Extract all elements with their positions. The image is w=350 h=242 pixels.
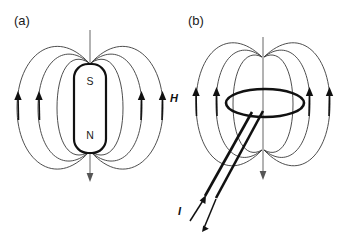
current-direction-arrows: [190, 195, 216, 232]
field-symbol-h: H: [170, 92, 179, 104]
field-line-b-outer-right: [264, 43, 330, 166]
field-arrow-3-head: [138, 91, 145, 100]
panel-b-center-axis: [260, 37, 267, 180]
field-line-b-outer-left: [196, 43, 262, 166]
current-arrow-1-head: [200, 195, 206, 204]
current-symbol-i: I: [178, 205, 182, 217]
center-axis-arrowhead-b: [260, 171, 267, 180]
field-line-b-mid-left: [216, 50, 262, 157]
current-arrow-2-shaft: [204, 199, 216, 228]
current-arrow-1-shaft: [190, 199, 204, 221]
magnet-pole-north-label: N: [86, 129, 94, 141]
field-arrow-b1-head: [192, 87, 199, 96]
field-arrow-1-head: [14, 91, 21, 100]
current-lead-wire-1: [205, 112, 252, 196]
magnetic-field-diagram: S N H (a): [0, 0, 350, 242]
panel-label-b: (b): [188, 13, 204, 28]
field-line-b-inner-right: [264, 55, 293, 152]
magnet-pole-south-label: S: [86, 75, 93, 87]
figure-root: S N H (a): [0, 0, 350, 242]
center-axis-arrowhead: [87, 173, 94, 182]
field-arrow-b3-head: [306, 87, 313, 96]
field-arrow-b4-head: [326, 87, 333, 96]
current-loop-coil: [226, 89, 304, 117]
panel-label-a: (a): [14, 13, 30, 28]
field-arrow-b2-head: [213, 87, 220, 96]
field-arrow-4-head: [159, 91, 166, 100]
panel-b: I (b): [178, 13, 333, 232]
panel-a: S N H (a): [14, 13, 179, 182]
field-arrow-2-head: [35, 91, 42, 100]
